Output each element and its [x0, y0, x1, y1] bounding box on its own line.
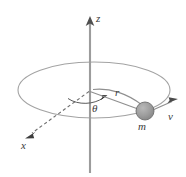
velocity-vector-arrowhead — [168, 97, 179, 103]
x-axis-arrowhead — [25, 132, 35, 139]
velocity-vector-label: v — [168, 111, 173, 122]
x-axis-line — [32, 92, 89, 134]
z-axis-label: z — [96, 13, 100, 24]
point-mass-sphere — [136, 102, 154, 120]
diagram-canvas — [0, 0, 186, 177]
x-axis-label: x — [21, 140, 26, 151]
mass-label: m — [138, 121, 146, 132]
physics-diagram-figure: z x r v θ m — [0, 0, 186, 177]
radius-vector-label: r — [115, 87, 119, 98]
theta-angle-label: θ — [92, 103, 97, 114]
